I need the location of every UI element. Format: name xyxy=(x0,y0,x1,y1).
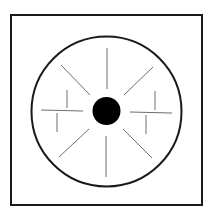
ray-top-right xyxy=(124,67,153,95)
ray-left-horizontal xyxy=(41,110,83,111)
ray-right-horizontal xyxy=(130,112,172,113)
ray-bottom-left xyxy=(59,129,89,157)
ray-top-left xyxy=(61,65,90,95)
center-dot xyxy=(93,97,121,125)
ray-bottom-right xyxy=(123,129,152,158)
diagram-canvas xyxy=(0,0,212,215)
